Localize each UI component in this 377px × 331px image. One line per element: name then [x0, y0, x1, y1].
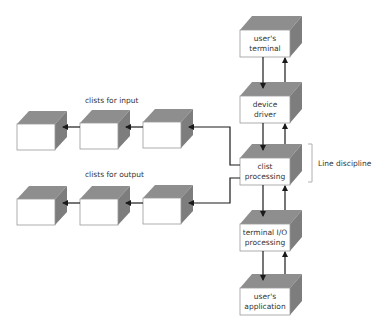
- tty-line-discipline-diagram: user's terminal device driver clist proc…: [0, 0, 377, 331]
- input-clist-2: [80, 110, 130, 149]
- users-application-label-2: application: [244, 302, 286, 311]
- output-clist-3: [143, 185, 193, 224]
- arrow-clist-to-input: [189, 127, 240, 165]
- users-terminal-label-1: user's: [254, 34, 276, 43]
- box-users-terminal: user's terminal: [240, 16, 302, 57]
- device-driver-label-2: driver: [254, 110, 277, 119]
- box-clist-processing: clist processing: [240, 144, 302, 185]
- users-application-label-1: user's: [254, 292, 276, 301]
- users-terminal-label-2: terminal: [249, 44, 280, 53]
- arrow-clist-to-output: [189, 178, 240, 203]
- clists-output-label: clists for output: [85, 170, 144, 179]
- clist-processing-label-1: clist: [257, 162, 272, 171]
- box-terminal-io-processing: terminal I/O processing: [240, 210, 302, 251]
- terminal-io-label-1: terminal I/O: [243, 228, 287, 237]
- input-clist-1: [17, 111, 67, 150]
- clist-processing-label-2: processing: [245, 172, 286, 181]
- box-device-driver: device driver: [240, 82, 302, 123]
- input-clist-3: [143, 109, 193, 148]
- output-clist-1: [17, 186, 67, 225]
- clists-input-label: clists for input: [85, 96, 138, 105]
- line-discipline-label: Line discipline: [318, 159, 372, 168]
- device-driver-label-1: device: [253, 100, 278, 109]
- output-clist-2: [80, 186, 130, 225]
- box-users-application: user's application: [240, 274, 302, 315]
- terminal-io-label-2: processing: [245, 238, 286, 247]
- line-discipline-bracket: Line discipline: [308, 144, 372, 182]
